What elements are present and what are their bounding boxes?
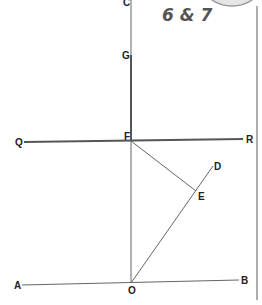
segment-QR	[24, 139, 243, 142]
title-text: 6 & 7	[162, 5, 212, 25]
label-R: R	[246, 134, 254, 145]
label-B: B	[241, 275, 248, 286]
label-E: E	[198, 191, 205, 202]
segment-OD	[131, 166, 213, 283]
diagram-canvas: 6 & 7 C G F Q R D E O A B	[0, 0, 262, 305]
geometry-diagram: 6 & 7 C G F Q R D E O A B	[0, 0, 262, 305]
label-G: G	[122, 50, 130, 61]
label-D: D	[214, 161, 221, 172]
label-A: A	[14, 280, 21, 291]
segment-FE	[131, 141, 196, 191]
label-Q: Q	[15, 137, 23, 148]
label-O: O	[128, 285, 136, 296]
label-C: C	[123, 0, 130, 8]
label-F: F	[124, 131, 130, 142]
